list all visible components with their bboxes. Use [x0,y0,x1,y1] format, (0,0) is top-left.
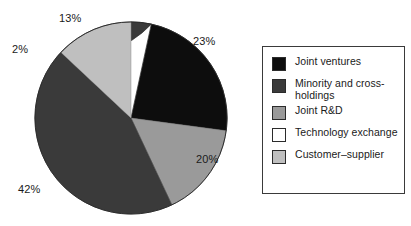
pie-graphic [33,20,229,216]
legend-item-technology-exchange[interactable]: Technology exchange [272,127,399,145]
legend-swatch-icon [272,106,286,120]
legend-swatch-icon [272,150,286,164]
legend-item-label: Joint R&D [295,105,343,117]
slice-label-20: 20% [196,154,218,165]
pie-plot-area: 13% 2% 23% 20% 42% [0,0,256,226]
legend-item-label: Customer–supplier [295,149,384,161]
slice-label-2: 2% [12,44,28,55]
legend-swatch-icon [272,57,286,71]
legend-item-customer-supplier[interactable]: Customer–supplier [272,149,399,167]
legend-list: Joint ventures Minority and cross-holdin… [272,56,399,167]
slice-label-42: 42% [18,184,40,195]
chart-legend: Joint ventures Minority and cross-holdin… [262,46,405,194]
legend-item-minority-cross-holdings[interactable]: Minority and cross-holdings [272,78,399,101]
legend-item-label: Minority and cross-holdings [295,78,399,101]
slice-label-23: 23% [193,36,215,47]
legend-swatch-icon [272,79,286,93]
legend-item-label: Technology exchange [295,127,398,139]
legend-item-joint-ventures[interactable]: Joint ventures [272,56,399,74]
pie-chart-figure: 13% 2% 23% 20% 42% Joint ventures Minori… [0,0,411,226]
slice-label-13: 13% [59,13,81,24]
legend-item-label: Joint ventures [295,56,361,68]
legend-swatch-icon [272,128,286,142]
legend-item-joint-rd[interactable]: Joint R&D [272,105,399,123]
